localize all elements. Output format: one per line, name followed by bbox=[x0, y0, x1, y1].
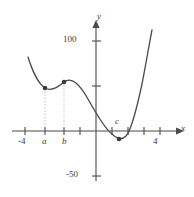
point-c bbox=[117, 137, 122, 142]
point-label-b: b bbox=[62, 137, 67, 146]
x-axis-label: x bbox=[181, 124, 185, 133]
point-b bbox=[62, 80, 67, 85]
point-label-c: c bbox=[115, 117, 119, 126]
y-axis-label: y bbox=[97, 12, 101, 21]
point-a bbox=[43, 86, 48, 91]
x-tick-label-4: 4 bbox=[153, 137, 158, 146]
y-axis-arrowhead bbox=[92, 20, 99, 28]
graph-figure: y x 100 -50 -4 4 a b c bbox=[0, 0, 194, 197]
y-tick-label-100: 100 bbox=[63, 35, 77, 44]
function-curve bbox=[28, 30, 152, 139]
point-label-a: a bbox=[42, 137, 47, 146]
y-tick-label-minus-50: -50 bbox=[66, 170, 78, 179]
function-graph-svg bbox=[0, 0, 194, 197]
x-tick-label-minus-4: -4 bbox=[18, 137, 26, 146]
